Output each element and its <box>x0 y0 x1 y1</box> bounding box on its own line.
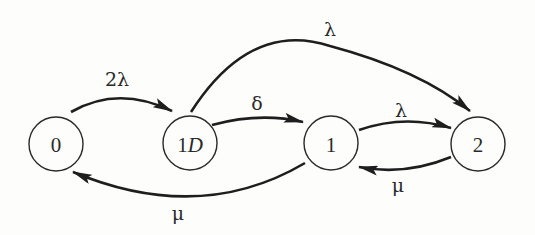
state-diagram: 0 1D 1 2 2λ λ δ λ μ μ <box>0 0 535 235</box>
edge-1D-to-2-label: λ <box>324 20 336 39</box>
edge-1-to-0-label: μ <box>172 204 184 223</box>
state-1D-label: 1D <box>177 135 203 156</box>
edge-0-to-1D-label: 2λ <box>105 70 129 89</box>
edge-1-to-0 <box>73 163 305 196</box>
edge-1-to-2 <box>359 121 451 130</box>
state-0-number: 0 <box>51 133 62 157</box>
state-0-label: 0 <box>51 135 62 156</box>
edge-2-to-1 <box>359 157 451 170</box>
state-2-label: 2 <box>473 135 484 156</box>
edge-1D-to-2 <box>191 40 470 112</box>
edge-0-to-1D <box>71 98 172 112</box>
state-1D-number: 1 <box>177 133 188 157</box>
edge-1-to-2-label: λ <box>395 101 407 120</box>
state-1D-suffix: D <box>188 133 203 157</box>
state-1-label: 1 <box>326 135 337 156</box>
edge-1D-to-1-label: δ <box>251 94 262 113</box>
diagram-graphics <box>0 0 535 235</box>
edge-2-to-1-label: μ <box>392 176 404 195</box>
edge-1D-to-1 <box>212 118 303 125</box>
state-1-number: 1 <box>326 133 337 157</box>
state-2-number: 2 <box>473 133 484 157</box>
